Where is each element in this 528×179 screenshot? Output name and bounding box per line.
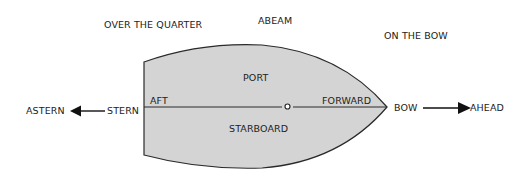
- ship-hull: [144, 45, 387, 169]
- astern-arrowhead-icon: [70, 106, 81, 117]
- ship-hull-diagram: [0, 0, 528, 179]
- label-bow: BOW: [394, 103, 418, 113]
- label-forward: FORWARD: [322, 96, 371, 106]
- label-abeam: ABEAM: [258, 16, 292, 26]
- label-stern: STERN: [107, 106, 139, 116]
- label-port: PORT: [243, 73, 268, 83]
- label-over-the-quarter: OVER THE QUARTER: [104, 20, 202, 30]
- midship-marker: [285, 104, 290, 109]
- label-aft: AFT: [150, 96, 168, 106]
- label-starboard: STARBOARD: [229, 124, 288, 134]
- label-ahead: AHEAD: [470, 103, 504, 113]
- label-on-the-bow: ON THE BOW: [384, 31, 448, 41]
- label-astern: ASTERN: [26, 106, 65, 116]
